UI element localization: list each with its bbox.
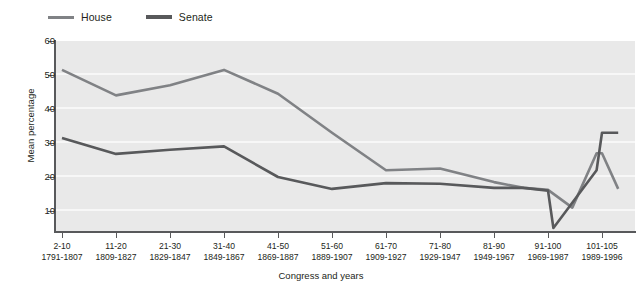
- x-tick-mark: [386, 232, 387, 238]
- chart-figure: House Senate Mean percentage 60 50 40 30…: [0, 0, 642, 293]
- x-tick-mark: [548, 232, 549, 238]
- x-tick-label: 101-105 1989-1996: [562, 241, 642, 263]
- x-tick-mark: [332, 232, 333, 238]
- x-tick-congress: 101-105: [562, 241, 642, 252]
- x-tick-mark: [224, 232, 225, 238]
- x-tick-mark: [440, 232, 441, 238]
- x-tick-years: 1989-1996: [562, 252, 642, 263]
- x-tick-mark: [278, 232, 279, 238]
- x-tick-mark: [116, 232, 117, 238]
- x-tick-mark: [170, 232, 171, 238]
- series-line-senate: [62, 133, 618, 228]
- x-tick-mark: [494, 232, 495, 238]
- x-tick-mark: [602, 232, 603, 238]
- x-axis-title: Congress and years: [0, 270, 642, 281]
- x-tick-mark: [62, 232, 63, 238]
